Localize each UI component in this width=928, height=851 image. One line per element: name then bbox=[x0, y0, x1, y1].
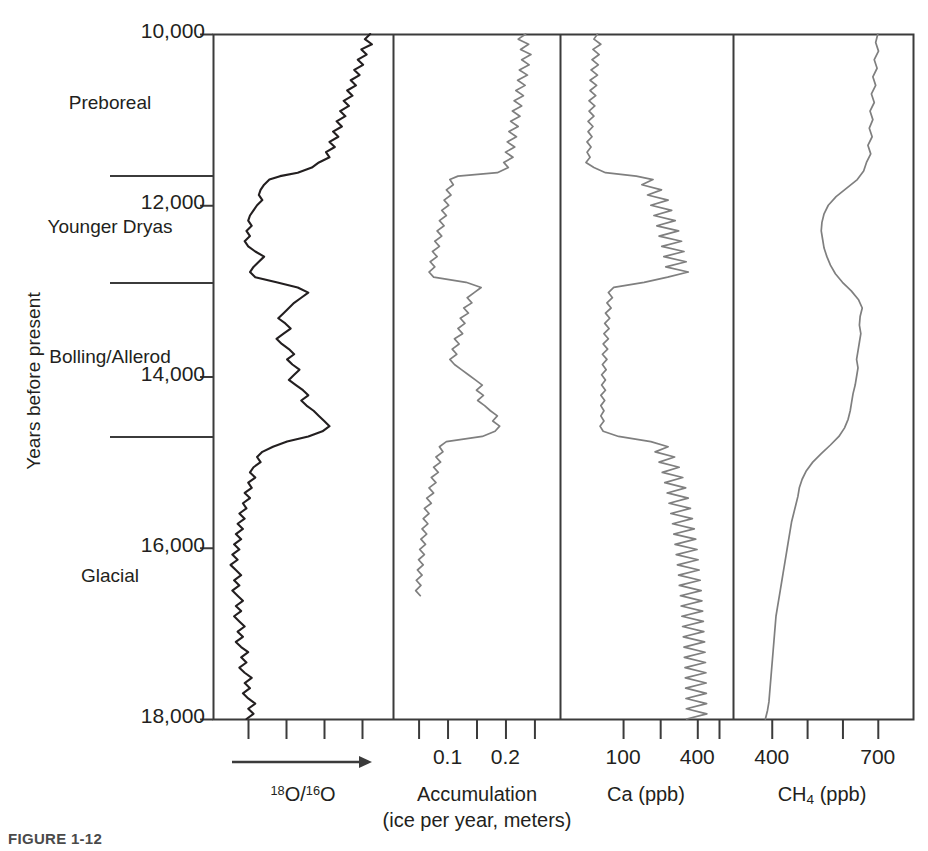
y-tick-label: 16,000 bbox=[85, 533, 205, 557]
interval-label: Younger Dryas bbox=[15, 216, 205, 238]
interval-divider bbox=[110, 436, 213, 438]
x-axis-ticks bbox=[249, 719, 879, 739]
panel-caption-ch4: CH4 (ppb) bbox=[778, 783, 867, 807]
y-axis-title: Years before present bbox=[23, 261, 45, 501]
series-ch4 bbox=[765, 34, 878, 719]
plot-frame bbox=[214, 34, 914, 720]
series-d18o bbox=[231, 34, 372, 719]
panel-caption-ca: Ca (ppb) bbox=[607, 783, 685, 806]
interval-label: Bolling/Allerod bbox=[15, 346, 205, 368]
d18o-direction-arrow bbox=[232, 756, 372, 768]
figure-paleoclimate-proxies: Years before present 10,00012,00014,0001… bbox=[0, 0, 928, 851]
interval-divider bbox=[110, 282, 213, 284]
panel-caption-accumulation-units: (ice per year, meters) bbox=[383, 809, 572, 832]
y-tick-label: 18,000 bbox=[85, 704, 205, 728]
x-tick-label: 0.1 bbox=[433, 745, 462, 769]
x-tick-label: 100 bbox=[606, 745, 641, 769]
series-ca bbox=[586, 34, 707, 719]
y-tick-label: 12,000 bbox=[85, 190, 205, 214]
x-tick-label: 0.2 bbox=[491, 745, 520, 769]
panel-caption-accumulation: Accumulation bbox=[417, 783, 537, 806]
interval-label: Glacial bbox=[15, 565, 205, 587]
interval-label: Preboreal bbox=[15, 92, 205, 114]
x-tick-label: 400 bbox=[754, 745, 789, 769]
panel-caption-d18o: 18O/16O bbox=[270, 783, 335, 806]
x-tick-label: 400 bbox=[680, 745, 715, 769]
interval-divider bbox=[110, 175, 213, 177]
series-accumulation bbox=[416, 34, 531, 596]
figure-caption: FIGURE 1-12 bbox=[8, 830, 102, 847]
x-tick-label: 700 bbox=[860, 745, 895, 769]
y-tick-label: 10,000 bbox=[85, 19, 205, 43]
